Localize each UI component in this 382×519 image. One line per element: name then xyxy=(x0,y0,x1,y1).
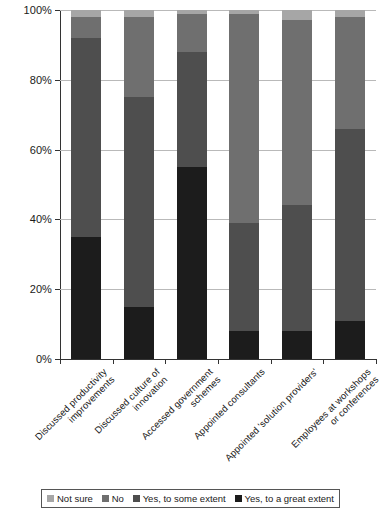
y-axis-tick-label: 20% xyxy=(30,283,52,295)
legend-swatch-yes-great xyxy=(235,495,242,502)
bar-1[interactable] xyxy=(71,10,101,359)
legend-item-label: Yes, to a great extent xyxy=(245,493,334,504)
gridline xyxy=(60,289,376,290)
bar-segment[interactable] xyxy=(282,20,312,205)
bar-segment[interactable] xyxy=(71,10,101,17)
bar-segment[interactable] xyxy=(71,38,101,237)
legend-item-label: Not sure xyxy=(57,493,93,504)
y-axis-tick-label: 80% xyxy=(30,74,52,86)
gridline xyxy=(60,150,376,151)
bar-segment[interactable] xyxy=(229,14,259,223)
bar-segment[interactable] xyxy=(177,52,207,167)
gridline xyxy=(60,219,376,220)
bar-segment[interactable] xyxy=(282,331,312,359)
bar-segment[interactable] xyxy=(335,321,365,359)
plot-area: 0%20%40%60%80%100% xyxy=(60,10,376,359)
bar-segment[interactable] xyxy=(177,14,207,52)
bar-segment[interactable] xyxy=(335,17,365,129)
bar-6[interactable] xyxy=(335,10,365,359)
gridline xyxy=(60,10,376,11)
bar-segment[interactable] xyxy=(335,10,365,17)
bar-segment[interactable] xyxy=(71,237,101,359)
legend-swatch-no xyxy=(102,495,109,502)
bar-5[interactable] xyxy=(282,10,312,359)
bar-segment[interactable] xyxy=(124,17,154,97)
bar-2[interactable] xyxy=(124,10,154,359)
bar-segment[interactable] xyxy=(71,17,101,38)
bar-segment[interactable] xyxy=(124,307,154,359)
legend-swatch-yes-some xyxy=(133,495,140,502)
stacked-bar-chart: 0%20%40%60%80%100% Discussed productivit… xyxy=(0,0,382,519)
chart-legend: Not sureNoYes, to some extentYes, to a g… xyxy=(41,489,340,508)
bar-4[interactable] xyxy=(229,10,259,359)
bar-segment[interactable] xyxy=(124,97,154,306)
bar-segment[interactable] xyxy=(177,167,207,359)
legend-item-label: No xyxy=(112,493,124,504)
legend-item[interactable]: Yes, to a great extent xyxy=(235,493,334,504)
bar-segment[interactable] xyxy=(282,10,312,20)
gridline xyxy=(60,80,376,81)
y-axis-tick-label: 100% xyxy=(23,4,52,16)
x-axis-labels: Discussed productivity improvementsDiscu… xyxy=(0,362,382,480)
y-axis-tick-mark xyxy=(55,289,60,290)
y-axis-tick-mark xyxy=(55,10,60,11)
y-axis-tick-mark xyxy=(55,219,60,220)
y-axis-tick-label: 60% xyxy=(30,144,52,156)
bar-segment[interactable] xyxy=(124,10,154,17)
bar-3[interactable] xyxy=(177,10,207,359)
bar-segment[interactable] xyxy=(229,10,259,13)
legend-item[interactable]: No xyxy=(102,493,124,504)
bar-segment[interactable] xyxy=(177,10,207,13)
bar-segment[interactable] xyxy=(229,331,259,359)
legend-swatch-not-sure xyxy=(47,495,54,502)
legend-item-label: Yes, to some extent xyxy=(143,493,226,504)
bar-segment[interactable] xyxy=(335,129,365,321)
y-axis-tick-label: 40% xyxy=(30,213,52,225)
y-axis-tick-mark xyxy=(55,150,60,151)
legend-item[interactable]: Not sure xyxy=(47,493,93,504)
bar-segment[interactable] xyxy=(282,205,312,331)
bar-segment[interactable] xyxy=(229,223,259,331)
legend-item[interactable]: Yes, to some extent xyxy=(133,493,226,504)
y-axis-tick-mark xyxy=(55,80,60,81)
